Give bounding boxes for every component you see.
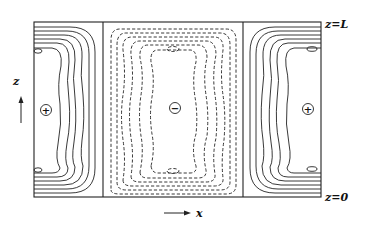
arrow-right-icon — [184, 211, 191, 216]
svg-text:−: − — [171, 103, 179, 114]
convection-cell-diagram: + − + z=L z=0 z — [0, 0, 368, 227]
bottom-boundary-label: z=0 — [324, 191, 348, 204]
x-axis-label: x — [195, 207, 203, 220]
arrow-up-icon — [19, 96, 24, 103]
center-cell-sign: − — [170, 103, 181, 115]
x-axis-indicator: x — [164, 207, 203, 220]
left-cell-sign: + — [41, 105, 52, 117]
z-axis-indicator: z — [12, 75, 24, 123]
top-boundary-label: z=L — [324, 18, 348, 31]
svg-text:+: + — [304, 104, 312, 115]
right-cell-sign: + — [303, 104, 314, 116]
svg-text:+: + — [42, 105, 50, 116]
z-axis-label: z — [12, 75, 20, 88]
